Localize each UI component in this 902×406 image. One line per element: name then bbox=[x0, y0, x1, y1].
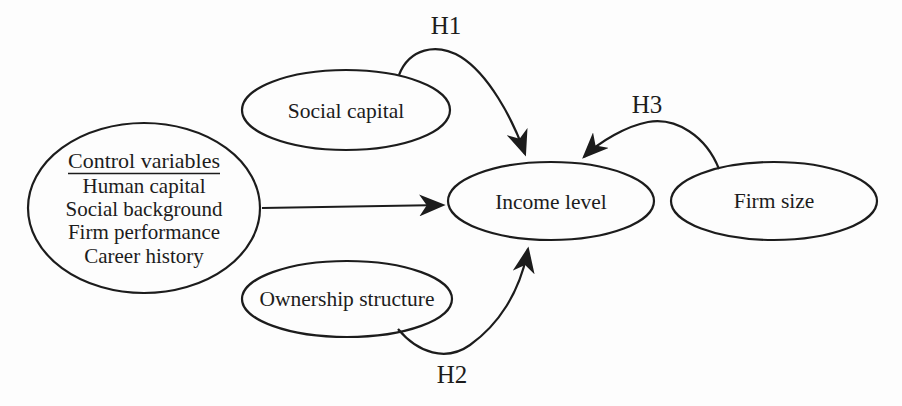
h2-label: H2 bbox=[437, 361, 468, 388]
control-item-firm-performance: Firm performance bbox=[68, 220, 220, 244]
control-item-social-background: Social background bbox=[66, 197, 223, 221]
control-item-career-history: Career history bbox=[84, 244, 204, 268]
control-variables-title: Control variables bbox=[68, 149, 220, 173]
arrow-controls-to-income bbox=[262, 205, 443, 208]
controls-arrow-line bbox=[262, 205, 443, 208]
node-social-capital: Social capital bbox=[242, 70, 450, 150]
concept-model-figure: H1 H2 H3 Social capital Control variable… bbox=[0, 0, 902, 406]
arrow-h1-social-to-income: H1 bbox=[399, 12, 525, 154]
firm-size-label: Firm size bbox=[734, 189, 815, 213]
h3-arrow-curve bbox=[584, 121, 719, 169]
node-income-level: Income level bbox=[448, 162, 654, 240]
arrow-h3-firmsize-to-income: H3 bbox=[584, 91, 719, 169]
ownership-structure-label: Ownership structure bbox=[260, 287, 435, 311]
node-control-variables: Control variables Human capital Social b… bbox=[28, 123, 260, 293]
h3-label: H3 bbox=[632, 91, 663, 118]
node-ownership-structure: Ownership structure bbox=[242, 261, 452, 337]
h1-label: H1 bbox=[431, 12, 462, 39]
social-capital-label: Social capital bbox=[288, 99, 404, 123]
concept-diagram-svg: H1 H2 H3 Social capital Control variable… bbox=[0, 0, 902, 406]
income-level-label: Income level bbox=[495, 190, 607, 214]
control-item-human-capital: Human capital bbox=[82, 174, 205, 198]
node-firm-size: Firm size bbox=[671, 162, 877, 240]
